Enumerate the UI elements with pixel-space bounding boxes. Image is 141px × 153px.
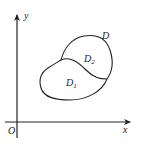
subregion-d1-label: D1 [65,77,77,90]
origin-label: O [8,125,15,136]
region-d-label: D [101,30,110,41]
y-axis-label: y [23,10,29,21]
subregion-d2-label: D2 [83,53,95,66]
x-axis-label: x [122,124,128,135]
region-d-boundary [40,36,112,100]
region-diagram: y O x D D2 D1 [0,0,141,153]
